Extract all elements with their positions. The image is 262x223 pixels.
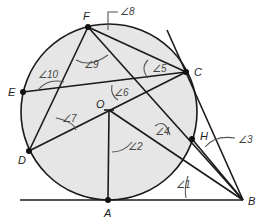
point-h bbox=[189, 136, 195, 142]
angle-label-4: ∠4 bbox=[155, 126, 170, 137]
diagram-canvas: ∠1 ∠2 ∠3 ∠4 ∠5 ∠6 ∠7 ∠8 ∠9 ∠10 F C E D O bbox=[0, 0, 262, 223]
point-c bbox=[183, 69, 189, 75]
geometry-diagram: ∠1 ∠2 ∠3 ∠4 ∠5 ∠6 ∠7 ∠8 ∠9 ∠10 F C E D O bbox=[0, 0, 262, 223]
segment-oa bbox=[108, 110, 109, 200]
angle-label-5: ∠5 bbox=[152, 63, 167, 74]
label-o: O bbox=[96, 98, 105, 110]
point-a bbox=[105, 197, 111, 203]
label-c: C bbox=[194, 66, 202, 78]
label-e: E bbox=[8, 86, 16, 98]
segment-hb bbox=[192, 139, 243, 200]
label-h: H bbox=[200, 130, 208, 142]
angle-label-3: ∠3 bbox=[238, 134, 253, 145]
label-a: A bbox=[103, 207, 111, 219]
angle-arc-3 bbox=[205, 137, 235, 147]
point-f bbox=[85, 24, 91, 30]
angle-label-8: ∠8 bbox=[120, 6, 135, 17]
angle-label-10: ∠10 bbox=[38, 69, 59, 80]
angle-label-9: ∠9 bbox=[84, 59, 99, 70]
label-f: F bbox=[83, 10, 91, 22]
angle-label-6: ∠6 bbox=[114, 87, 129, 98]
angle-label-2: ∠2 bbox=[128, 141, 143, 152]
label-b: B bbox=[248, 195, 255, 207]
point-d bbox=[26, 148, 32, 154]
angle-label-7: ∠7 bbox=[62, 113, 77, 124]
angle-label-1: ∠1 bbox=[176, 179, 191, 190]
label-d: D bbox=[18, 154, 26, 166]
point-e bbox=[20, 89, 26, 95]
